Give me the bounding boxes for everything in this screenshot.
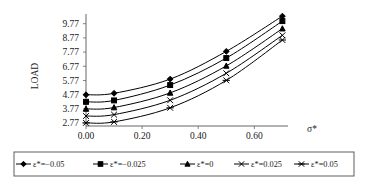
y-tick-label: 3.77 (62, 104, 79, 114)
marker-star (167, 105, 174, 111)
legend-label: ε*=0.025 (251, 160, 282, 169)
marker-star (279, 37, 286, 43)
marker-square (84, 99, 89, 104)
y-axis-ticks: 2.773.774.775.776.777.778.779.77 (62, 19, 86, 128)
marker-square (280, 19, 285, 24)
y-tick-label: 6.77 (62, 62, 79, 72)
series-1 (83, 13, 285, 97)
marker-triangle (167, 90, 173, 95)
y-tick-label: 5.77 (62, 76, 79, 86)
marker-square (112, 98, 117, 103)
plot-series-group (82, 13, 286, 126)
marker-triangle (280, 26, 286, 31)
x-tick-label: 0.00 (78, 131, 95, 141)
legend-label: ε*=−0.05 (33, 160, 65, 169)
marker-star (223, 77, 230, 83)
y-tick-label: 4.77 (62, 90, 79, 100)
legend-label: ε*=0 (197, 160, 213, 169)
y-tick-label: 7.77 (62, 47, 79, 57)
y-axis-title: LOAD (30, 63, 40, 90)
y-tick-label: 9.77 (62, 19, 79, 29)
x-axis-title: σ* (307, 124, 317, 134)
series-line (86, 35, 282, 116)
load-vs-sigma-line-chart: LOAD 2.773.774.775.776.777.778.779.77 0.… (0, 0, 368, 188)
marker-square (98, 162, 103, 167)
legend-label: ε*=0.05 (311, 160, 338, 169)
legend-label: ε*=−0.025 (110, 160, 146, 169)
marker-cross (167, 97, 173, 103)
marker-square (224, 56, 229, 61)
marker-triangle (224, 63, 230, 68)
marker-triangle (83, 106, 89, 111)
marker-diamond (111, 90, 117, 96)
marker-cross (223, 70, 229, 76)
y-tick-label: 8.77 (62, 33, 79, 43)
marker-diamond (83, 92, 89, 98)
marker-diamond (223, 48, 229, 54)
x-tick-label: 0.60 (246, 131, 263, 141)
chart-figure: LOAD 2.773.774.775.776.777.778.779.77 0.… (0, 0, 368, 188)
marker-triangle (111, 105, 117, 110)
marker-diamond (167, 76, 173, 82)
series-5 (82, 37, 286, 126)
marker-star (110, 119, 117, 125)
y-tick-label: 2.77 (62, 118, 79, 128)
x-tick-label: 0.40 (190, 131, 207, 141)
x-tick-label: 0.20 (134, 131, 151, 141)
x-axis-ticks: 0.000.200.400.60 (78, 126, 263, 141)
marker-square (168, 83, 173, 88)
series-line (86, 40, 282, 123)
